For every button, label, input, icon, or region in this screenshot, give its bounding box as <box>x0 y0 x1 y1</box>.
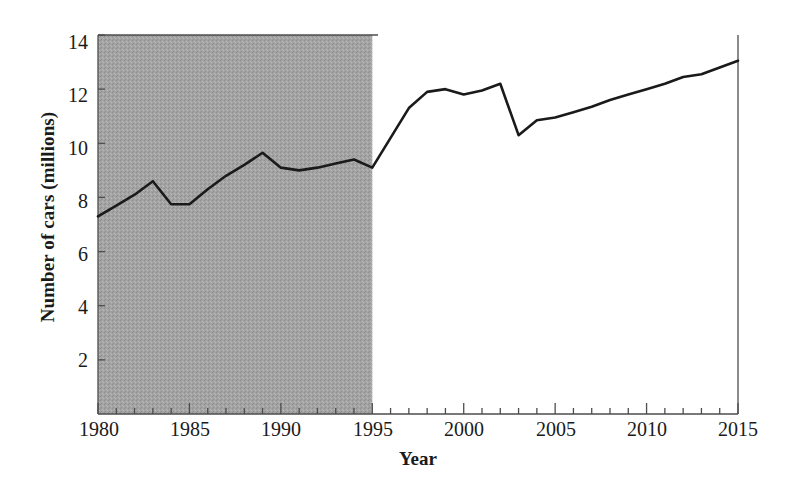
shaded-region-1980-1995 <box>98 35 372 414</box>
plot-area <box>0 0 789 483</box>
chart-figure: Number of cars (millions) 14 12 10 8 6 4… <box>0 0 789 483</box>
